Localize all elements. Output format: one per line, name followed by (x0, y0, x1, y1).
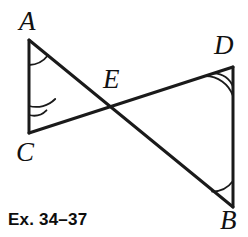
vertex-label-e: E (103, 66, 120, 93)
vertex-label-a: A (19, 8, 36, 35)
figure-canvas (0, 0, 248, 237)
angle-arc-c-2 (29, 99, 55, 107)
angle-arc-b-1 (212, 181, 233, 192)
geometry-figure: A C D B E Ex. 34–37 (0, 0, 248, 237)
vertex-label-d: D (214, 32, 234, 59)
vertex-label-c: C (16, 139, 34, 166)
angle-arc-d-1 (214, 73, 233, 87)
figure-caption: Ex. 34–37 (8, 210, 87, 230)
angle-arc-c-1 (29, 110, 47, 115)
vertex-label-b: B (220, 207, 237, 234)
angle-arc-a-1 (29, 55, 48, 65)
